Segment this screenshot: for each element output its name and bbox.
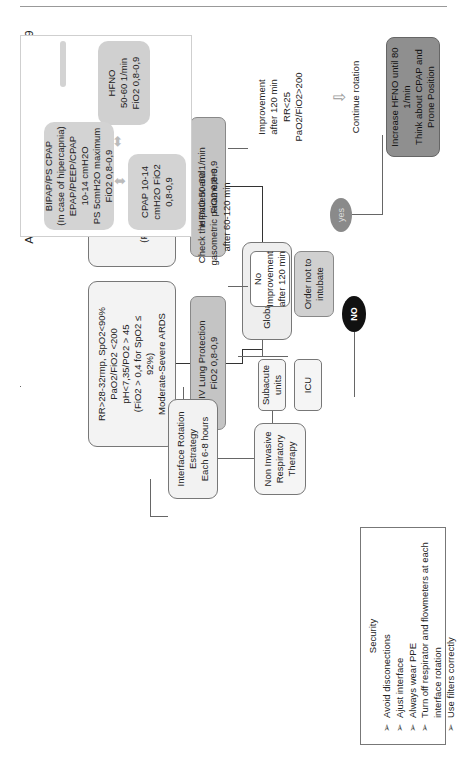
- connector: [226, 363, 242, 364]
- connector: [183, 387, 184, 399]
- increase-hfno-box: Increase HFNO until 80 1/min Think about…: [386, 37, 440, 157]
- criteria-2-line: Moderate-Severe ARDS: [156, 307, 168, 421]
- improvement-line: RR<25: [281, 47, 293, 167]
- security-item: ➢Avoid disconections: [381, 540, 394, 732]
- bipap-line: (In case of hipercapnia): [55, 126, 67, 225]
- bullet-icon: ➢: [419, 718, 445, 732]
- improvement-line: PaO2/FiO2>200: [293, 47, 305, 167]
- hfno-interface-line: HFNO: [106, 57, 118, 110]
- check-parameters-text: Check the patient and gasometric paramet…: [196, 147, 233, 287]
- criteria-box-2: RR>28-32rmp, SpO2<90% PaO2/FiO2 <200 pH<…: [88, 281, 176, 447]
- increase-line: Prone Position: [425, 47, 437, 146]
- security-item-text: Always wear PPE: [407, 643, 420, 718]
- connector: [242, 350, 243, 364]
- no-improvement-line: after 120 min: [276, 251, 288, 306]
- security-item-text: Turn off respirator and flowmeters at ea…: [419, 540, 445, 718]
- hfno-interface-box: HFNO 50-60 1/min FiO2 0,8-0,9: [98, 41, 150, 125]
- bipap-line: PS 5cmH2O maximum: [91, 126, 103, 225]
- connector: [176, 363, 190, 364]
- connector: [354, 332, 355, 397]
- criteria-2-line: RR>28-32rmp, SpO2<90%: [96, 307, 108, 421]
- check-line: gasometric parameters: [208, 147, 220, 287]
- security-item: ➢Always wear PPE: [407, 540, 420, 732]
- no-oval: NO: [342, 296, 366, 332]
- page-rule: [20, 6, 447, 7]
- increase-line: Increase HFNO until 80: [389, 47, 401, 146]
- bipap-line: BIPAP/PS CPAP: [43, 126, 55, 225]
- subacute-line: units: [272, 365, 284, 405]
- bullet-icon: ➢: [445, 718, 458, 732]
- niv-line: FiO2 0,8-0,9: [208, 320, 220, 405]
- no-improvement-box: No Improvement after 120 min: [250, 251, 290, 307]
- bullet-icon: ➢: [394, 718, 407, 732]
- connector: [262, 340, 263, 357]
- security-item-text: Use filters correctly: [445, 637, 458, 718]
- connector: [212, 458, 254, 459]
- connector: [238, 356, 263, 357]
- security-item: ➢Use filters correctly: [445, 540, 458, 732]
- niv-therapy-line: Therapy: [286, 432, 298, 487]
- rotation-line: Estrategy: [187, 412, 199, 487]
- bipap-interface-box: BIPAP/PS CPAP (In case of hipercapnia) E…: [44, 122, 114, 230]
- check-line: Check the patient and: [196, 147, 208, 287]
- connector: [228, 148, 248, 149]
- no-improvement-line: No Improvement: [252, 251, 276, 306]
- order-line: Order not to: [302, 259, 314, 310]
- criteria-2-line: PaO2/FiO2 <200: [108, 307, 120, 421]
- bipap-line: 10-14 cmH2O: [79, 126, 91, 225]
- rotated-page: Algorithm non invasive therapy COVID-19 …: [0, 0, 467, 757]
- security-box: Security ➢Avoid disconections ➢Ajust int…: [360, 527, 446, 745]
- cpap-interface-box: CPAP 10-14 cmH2O FiO2 0,8-0,9: [128, 154, 186, 230]
- cpap-line: CPAP 10-14: [139, 164, 151, 219]
- check-line: after 60-120 min: [221, 147, 233, 287]
- niv-therapy-line: Non Invasive: [262, 432, 274, 487]
- icu-label: ICU: [302, 377, 314, 393]
- double-arrow-icon: ⬍: [115, 169, 125, 187]
- rotation-line: Interface Rotation: [175, 412, 187, 487]
- rotation-line: Each 6-8 hours: [199, 412, 211, 487]
- connector: [352, 214, 382, 215]
- security-item: ➢Ajust interface: [394, 540, 407, 732]
- connector: [150, 516, 168, 517]
- increase-line: 1/min: [401, 47, 413, 146]
- connector: [228, 286, 248, 287]
- connector: [263, 356, 288, 357]
- improvement-line: after 120 min: [268, 47, 280, 167]
- hfno-interface-line: 50-60 1/min: [118, 57, 130, 110]
- security-title: Security: [367, 540, 378, 732]
- continue-rotation-text: Continue rotation: [350, 37, 362, 157]
- connector: [272, 411, 273, 423]
- improvement-line: Improvement: [256, 47, 268, 167]
- icu-box: ICU: [294, 359, 322, 411]
- yes-oval: yes: [330, 198, 352, 232]
- criteria-2-line: (FiO2 > 0,4 for SpO2 ≤: [132, 307, 144, 421]
- increase-line: Think about CPAP and: [413, 47, 425, 146]
- order-line: intubate: [314, 259, 326, 310]
- security-item-text: Avoid disconections: [381, 634, 394, 718]
- criteria-2-line: 92%): [144, 307, 156, 421]
- criteria-2-line: pH<7,35/PO2 > 45: [120, 307, 132, 421]
- bullet-icon: ➢: [407, 718, 420, 732]
- connector: [382, 135, 383, 215]
- security-item: ➢Turn off respirator and flowmeters at e…: [419, 540, 445, 732]
- subacute-line: Subacute: [260, 365, 272, 405]
- connector: [262, 186, 263, 242]
- hfno-interface-line: FiO2 0,8-0,9: [130, 57, 142, 110]
- interface-rotation-box: Interface Rotation Estrategy Each 6-8 ho…: [168, 399, 218, 499]
- hollow-arrow-icon: ⇩: [330, 37, 351, 157]
- security-item-text: Ajust interface: [394, 658, 407, 718]
- cpap-line: cmH2O FiO2: [151, 164, 163, 219]
- niv-respiratory-therapy-box: Non Invasive Respiratory Therapy: [254, 423, 306, 495]
- order-not-intubate-box: Order not to intubate: [294, 251, 334, 317]
- improvement-text: Improvement after 120 min RR<25 PaO2/FiO…: [256, 47, 305, 167]
- connector: [150, 479, 151, 517]
- cpap-line: 0,8-0,9: [163, 164, 175, 219]
- connector: [242, 349, 262, 350]
- bullet-icon: ➢: [381, 718, 394, 732]
- niv-therapy-line: Respiratory: [274, 432, 286, 487]
- niv-line: NIV Lung Protection: [196, 320, 208, 405]
- subacute-units-box: Subacute units: [258, 359, 286, 411]
- connector: [20, 386, 21, 387]
- double-arrow-icon: ⬌: [112, 129, 122, 147]
- bipap-line: EPAP/PEEP/CPAP: [67, 126, 79, 225]
